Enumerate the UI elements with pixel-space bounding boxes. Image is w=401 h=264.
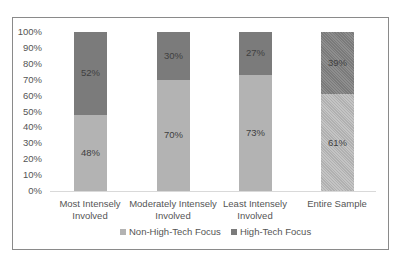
y-tick-label: 90% <box>14 43 42 53</box>
bar-segment-non-high-tech: 48% <box>74 115 107 191</box>
data-label: 52% <box>74 67 107 78</box>
legend-item-high-tech: High-Tech Focus <box>231 226 311 237</box>
data-label: 30% <box>157 50 190 61</box>
data-label: 70% <box>157 129 190 140</box>
x-tick-line: Least Intensely <box>210 198 300 210</box>
y-tick-label: 80% <box>14 59 42 69</box>
y-tick-label: 70% <box>14 75 42 85</box>
data-label: 39% <box>321 57 354 68</box>
data-label: 61% <box>321 137 354 148</box>
x-tick-label: Entire Sample <box>292 198 382 210</box>
bar-segment-high-tech: 27% <box>239 32 272 75</box>
x-tick-line: Involved <box>45 210 135 222</box>
x-tick-line: Most Intensely <box>45 198 135 210</box>
legend-item-non-high-tech: Non-High-Tech Focus <box>120 226 221 237</box>
bar: 61%39% <box>321 32 354 191</box>
bar-segment-non-high-tech: 70% <box>157 80 190 191</box>
bar: 70%30% <box>157 32 190 191</box>
bar-segment-high-tech: 30% <box>157 32 190 80</box>
y-tick-label: 0% <box>14 186 42 196</box>
x-tick-line: Entire Sample <box>292 198 382 210</box>
y-tick-label: 30% <box>14 138 42 148</box>
x-tick-label: Least IntenselyInvolved <box>210 198 300 222</box>
x-tick-line: Moderately Intensely <box>128 198 218 210</box>
x-tick-label: Moderately IntenselyInvolved <box>128 198 218 222</box>
y-tick-label: 60% <box>14 91 42 101</box>
x-tick-line: Involved <box>128 210 218 222</box>
bar: 73%27% <box>239 32 272 191</box>
data-label: 73% <box>239 127 272 138</box>
bar-segment-high-tech: 52% <box>74 32 107 115</box>
bar-segment-high-tech: 39% <box>321 32 354 94</box>
data-label: 27% <box>239 47 272 58</box>
bar-segment-non-high-tech: 73% <box>239 75 272 191</box>
y-tick-label: 10% <box>14 170 42 180</box>
bar: 48%52% <box>74 32 107 191</box>
legend: Non-High-Tech Focus High-Tech Focus <box>120 226 311 237</box>
data-label: 48% <box>74 147 107 158</box>
legend-swatch-icon <box>231 229 237 235</box>
bar-segment-non-high-tech: 61% <box>321 94 354 191</box>
y-tick-label: 50% <box>14 107 42 117</box>
y-tick-label: 100% <box>14 27 42 37</box>
x-axis-line <box>50 191 376 192</box>
legend-swatch-icon <box>120 229 126 235</box>
x-tick-label: Most IntenselyInvolved <box>45 198 135 222</box>
y-tick-label: 20% <box>14 154 42 164</box>
x-tick-line: Involved <box>210 210 300 222</box>
y-tick-label: 40% <box>14 122 42 132</box>
